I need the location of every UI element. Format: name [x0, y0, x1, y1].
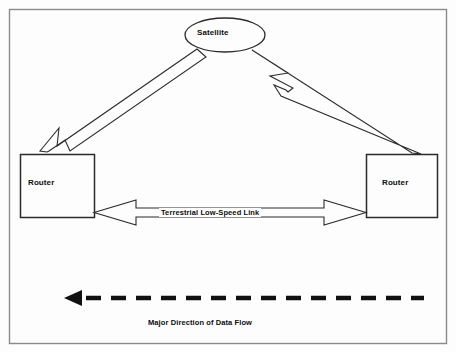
router-left-label: Router — [28, 178, 54, 187]
data-flow-caption: Major Direction of Data Flow — [148, 318, 252, 327]
router-right-label: Router — [382, 178, 408, 187]
network-diagram — [0, 0, 456, 352]
terrestrial-link-label: Terrestrial Low-Speed Link — [159, 208, 261, 217]
diagram-canvas: Satellite Router Router Terrestrial Low-… — [0, 0, 456, 352]
satellite-label: Satellite — [197, 28, 229, 37]
